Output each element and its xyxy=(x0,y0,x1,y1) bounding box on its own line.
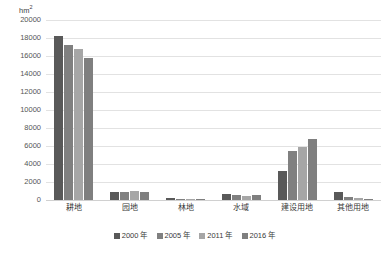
y-tick-18000: 18000 xyxy=(0,34,41,42)
legend-swatch-icon xyxy=(199,233,205,239)
bar xyxy=(288,151,297,201)
bar xyxy=(334,192,343,200)
bar xyxy=(222,194,231,200)
x-axis-label: 林地 xyxy=(158,202,214,214)
legend-label: 2000 年 xyxy=(122,231,148,240)
y-tick-10000: 10000 xyxy=(0,106,41,114)
y-tick-6000: 6000 xyxy=(0,142,41,150)
bar xyxy=(364,199,373,200)
chart-legend: 2000 年2005 年2011 年2016 年 xyxy=(0,231,389,240)
bar xyxy=(120,192,129,200)
bar xyxy=(84,58,93,200)
bar xyxy=(278,171,287,200)
y-tick-8000: 8000 xyxy=(0,124,41,132)
x-axis-tick-labels: 耕地园地林地水域建设用地其他用地 xyxy=(46,202,381,214)
bar xyxy=(140,192,149,200)
bar xyxy=(232,195,241,200)
x-axis-label: 园地 xyxy=(102,202,158,214)
bar-group xyxy=(102,20,158,200)
y-tick-2000: 2000 xyxy=(0,178,41,186)
bar xyxy=(54,36,63,200)
legend-swatch-icon xyxy=(157,233,163,239)
legend-swatch-icon xyxy=(242,233,248,239)
bar-group xyxy=(46,20,102,200)
y-tick-16000: 16000 xyxy=(0,52,41,60)
bar-chart: hm2 20000 18000 16000 14000 12000 10000 … xyxy=(0,0,389,253)
bar xyxy=(176,199,185,200)
legend-swatch-icon xyxy=(114,233,120,239)
legend-item[interactable]: 2011 年 xyxy=(199,231,232,240)
bar-groups xyxy=(46,20,381,200)
bar xyxy=(130,191,139,200)
y-tick-4000: 4000 xyxy=(0,160,41,168)
legend-item[interactable]: 2005 年 xyxy=(157,231,191,240)
gridline-0 xyxy=(46,200,381,201)
y-tick-0: 0 xyxy=(0,196,41,204)
legend-item[interactable]: 2000 年 xyxy=(114,231,148,240)
legend-label: 2005 年 xyxy=(165,231,191,240)
y-tick-20000: 20000 xyxy=(0,16,41,24)
bar-group xyxy=(269,20,325,200)
bar xyxy=(344,197,353,200)
legend-label: 2011 年 xyxy=(207,231,232,240)
bar xyxy=(186,199,195,200)
legend-label: 2016 年 xyxy=(250,231,276,240)
bar xyxy=(308,139,317,200)
legend-item[interactable]: 2016 年 xyxy=(242,231,276,240)
x-axis-label: 建设用地 xyxy=(269,202,325,214)
y-tick-12000: 12000 xyxy=(0,88,41,96)
y-axis-unit-text: hm xyxy=(19,6,29,15)
bar xyxy=(252,195,261,200)
bar xyxy=(64,45,73,200)
y-tick-14000: 14000 xyxy=(0,70,41,78)
bar xyxy=(242,196,251,200)
bar-group xyxy=(213,20,269,200)
bar xyxy=(354,198,363,200)
bar-group xyxy=(158,20,214,200)
x-axis-label: 耕地 xyxy=(46,202,102,214)
x-axis-label: 其他用地 xyxy=(325,202,381,214)
bar xyxy=(196,199,205,200)
bar xyxy=(298,147,307,200)
bar xyxy=(166,198,175,200)
bar-group xyxy=(325,20,381,200)
y-axis-unit-label: hm2 xyxy=(19,2,32,16)
bar xyxy=(110,192,119,200)
x-axis-label: 水域 xyxy=(213,202,269,214)
y-axis-unit-superscript: 2 xyxy=(29,4,32,10)
bar xyxy=(74,49,83,200)
